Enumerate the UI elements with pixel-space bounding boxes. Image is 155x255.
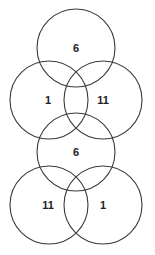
lower-left-label: 11 (42, 199, 54, 211)
venn-diagram: 6 1 11 6 11 1 (0, 0, 155, 255)
upper-top-label: 6 (73, 42, 79, 54)
upper-right-label: 11 (97, 94, 109, 106)
lower-top-label: 6 (73, 146, 79, 158)
upper-group: 6 1 11 (10, 9, 142, 139)
lower-right-label: 1 (100, 199, 106, 211)
upper-left-label: 1 (45, 94, 51, 106)
lower-group: 6 11 1 (10, 113, 142, 244)
